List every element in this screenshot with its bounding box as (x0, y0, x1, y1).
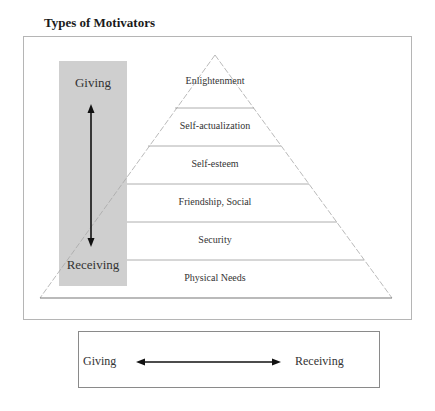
arrow-down-head (88, 238, 95, 247)
pyramid-level-friendship-social: Friendship, Social (135, 196, 295, 207)
scale-label-receiving: Receiving (295, 354, 344, 369)
pyramid-level-self-esteem: Self-esteem (135, 158, 295, 169)
side-label-receiving: Receiving (59, 257, 127, 273)
pyramid-level-self-actualization: Self-actualization (135, 120, 295, 131)
pyramid-level-physical-needs: Physical Needs (135, 272, 295, 283)
pyramid-level-security: Security (135, 234, 295, 245)
pyramid-right-edge (215, 55, 392, 298)
arrow-up-head (88, 104, 95, 113)
side-label-giving: Giving (59, 75, 127, 91)
pyramid-level-enlightenment: Enlightenment (135, 75, 295, 86)
scale-label-giving: Giving (83, 354, 116, 369)
